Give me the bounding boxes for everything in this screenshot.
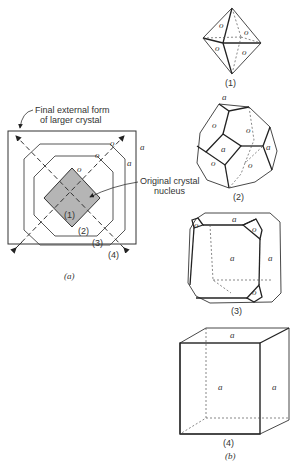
svg-text:a: a xyxy=(230,253,235,263)
callout-final-form-1: Final external form xyxy=(35,105,110,115)
svg-text:o: o xyxy=(95,150,100,160)
svg-text:a: a xyxy=(218,382,223,392)
svg-text:o: o xyxy=(77,164,82,174)
truncated-cube-form: a o o a a o (3) xyxy=(188,213,281,316)
svg-text:o: o xyxy=(215,43,220,53)
stage-label-3: (3) xyxy=(92,238,103,248)
svg-text:o: o xyxy=(194,220,199,230)
svg-text:o: o xyxy=(244,27,249,37)
svg-text:a: a xyxy=(232,214,237,224)
svg-text:a: a xyxy=(221,144,226,154)
svg-text:o: o xyxy=(252,287,257,297)
callout-nucleus-2: nucleus xyxy=(154,186,186,196)
svg-text:a: a xyxy=(266,142,271,152)
cube-form: a a a (4) (b) xyxy=(180,328,289,461)
svg-text:a: a xyxy=(127,158,132,168)
svg-text:a: a xyxy=(222,92,227,102)
form-label-1: (1) xyxy=(225,78,236,88)
svg-text:a: a xyxy=(272,382,277,392)
caption-b: (b) xyxy=(225,451,236,461)
form-label-4: (4) xyxy=(223,438,234,448)
svg-text:o: o xyxy=(242,47,247,57)
callout-nucleus-1: Original crystal xyxy=(140,176,200,186)
crystal-growth-diagram: o o o a a (1) (2) (3) (4) Final external… xyxy=(0,0,298,465)
svg-text:o: o xyxy=(212,120,217,130)
svg-text:o: o xyxy=(248,160,253,170)
stage-label-1: (1) xyxy=(64,210,75,220)
svg-text:o: o xyxy=(110,138,115,148)
svg-text:a: a xyxy=(230,330,235,340)
svg-text:o: o xyxy=(246,125,251,135)
stage-label-2: (2) xyxy=(78,226,89,236)
form-label-2: (2) xyxy=(233,192,244,202)
truncated-octahedron-form: a o o a a o o (2) xyxy=(197,92,277,202)
octahedron-form: o o o o (1) xyxy=(203,8,261,88)
svg-text:o: o xyxy=(252,224,257,234)
svg-text:a: a xyxy=(140,142,145,152)
svg-text:a: a xyxy=(268,253,273,263)
form-label-3: (3) xyxy=(231,306,242,316)
callout-final-form-2: of larger crystal xyxy=(40,115,102,125)
stage-label-4: (4) xyxy=(108,250,119,260)
part-a-growth-diagram: o o o a a (1) (2) (3) (4) Final external… xyxy=(8,105,200,281)
svg-text:o: o xyxy=(211,158,216,168)
caption-a: (a) xyxy=(64,271,75,281)
svg-text:o: o xyxy=(219,20,224,30)
